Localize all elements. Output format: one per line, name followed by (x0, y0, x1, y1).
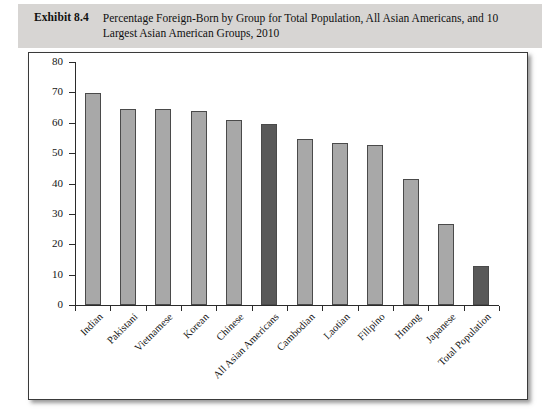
bar (120, 109, 136, 305)
x-axis-tick-label: Laotian (321, 311, 351, 341)
exhibit-caption-band: Exhibit 8.4 Percentage Foreign-Born by G… (18, 4, 542, 48)
y-axis-tick-label: 60 (29, 116, 63, 128)
y-axis-tick-label: 30 (29, 207, 63, 219)
y-axis-tick-label: 10 (29, 268, 63, 280)
x-tick-mark (322, 306, 323, 311)
x-tick-mark (358, 306, 359, 311)
bar (367, 145, 383, 305)
bar (297, 139, 313, 305)
bar (191, 111, 207, 305)
x-axis-tick-label: Chinese (214, 311, 246, 343)
bar (438, 224, 454, 305)
y-axis-tick-label: 20 (29, 237, 63, 249)
bar (226, 120, 242, 305)
x-tick-mark (181, 306, 182, 311)
x-tick-mark (146, 306, 147, 311)
exhibit-title-text: Percentage Foreign-Born by Group for Tot… (103, 11, 523, 41)
x-tick-mark (216, 306, 217, 311)
x-tick-mark (287, 306, 288, 311)
x-tick-mark (75, 306, 76, 311)
x-tick-mark (428, 306, 429, 311)
x-axis-tick-label: Korean (181, 311, 211, 341)
x-tick-mark (393, 306, 394, 311)
bar (332, 143, 348, 306)
bars-layer (75, 62, 499, 305)
x-tick-mark (110, 306, 111, 311)
x-axis-tick-label: All Asian Americans (211, 311, 281, 381)
x-tick-mark (499, 306, 500, 311)
bar-chart-plot: 01020304050607080 IndianPakistaniVietnam… (29, 53, 527, 399)
x-axis-tick-label: Hmong (392, 311, 422, 341)
exhibit-number-label: Exhibit 8.4 (34, 11, 89, 23)
bar (85, 93, 101, 305)
y-axis-tick-label: 80 (29, 55, 63, 67)
exhibit-figure: Exhibit 8.4 Percentage Foreign-Born by G… (0, 0, 553, 417)
bar (261, 124, 277, 305)
x-axis-tick-label: Indian (78, 311, 105, 338)
y-axis-tick-label: 0 (29, 298, 63, 310)
bar (403, 179, 419, 305)
x-tick-mark (252, 306, 253, 311)
y-axis-tick-label: 50 (29, 146, 63, 158)
bar (155, 109, 171, 305)
x-axis-tick-label: Japanese (424, 311, 458, 345)
x-tick-mark (464, 306, 465, 311)
x-axis-tick-label: Pakistani (105, 311, 140, 346)
x-axis-tick-label: Filipino (356, 311, 387, 342)
bar (473, 266, 489, 305)
y-axis-tick-label: 40 (29, 177, 63, 189)
x-axis-tick-label: Cambodian (274, 311, 316, 353)
chart-frame: 01020304050607080 IndianPakistaniVietnam… (28, 52, 528, 400)
y-axis-tick-label: 70 (29, 85, 63, 97)
